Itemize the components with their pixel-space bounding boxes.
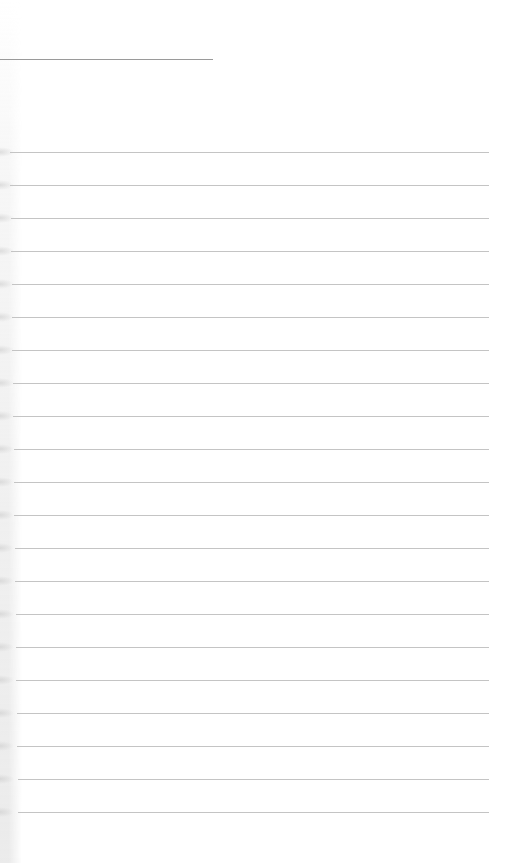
binding-hole-shadow xyxy=(0,411,14,421)
ruled-line xyxy=(16,647,489,648)
ruled-line xyxy=(12,284,489,285)
ruled-line xyxy=(18,812,489,813)
ruled-line xyxy=(14,482,489,483)
binding-hole-shadow xyxy=(0,774,14,784)
binding-hole-shadow xyxy=(0,741,14,751)
ruled-line xyxy=(12,350,489,351)
ruled-line xyxy=(17,713,489,714)
ruled-line xyxy=(17,746,489,747)
binding-hole-shadow xyxy=(0,708,14,718)
ruled-line xyxy=(11,218,489,219)
notebook-page xyxy=(0,0,527,863)
ruled-line xyxy=(10,152,489,153)
ruled-line xyxy=(14,449,489,450)
ruled-line xyxy=(13,416,489,417)
ruled-line xyxy=(12,317,489,318)
ruled-line xyxy=(16,614,489,615)
binding-hole-shadow xyxy=(0,675,14,685)
ruled-line xyxy=(18,779,489,780)
binding-hole-shadow xyxy=(0,609,14,619)
ruled-line xyxy=(15,548,489,549)
ruled-line xyxy=(14,515,489,516)
binding-hole-shadow xyxy=(0,378,14,388)
ruled-line xyxy=(10,185,489,186)
binding-hole-shadow xyxy=(0,477,14,487)
ruled-line xyxy=(11,251,489,252)
ruled-line xyxy=(13,383,489,384)
binding-hole-shadow xyxy=(0,510,14,520)
ruled-line xyxy=(15,581,489,582)
header-title-line xyxy=(0,59,213,60)
binding-hole-shadow xyxy=(0,807,14,817)
binding-hole-shadow xyxy=(0,444,14,454)
binding-hole-shadow xyxy=(0,576,14,586)
binding-hole-shadow xyxy=(0,543,14,553)
ruled-line xyxy=(16,680,489,681)
binding-edge-shadow xyxy=(0,0,22,863)
binding-hole-shadow xyxy=(0,642,14,652)
